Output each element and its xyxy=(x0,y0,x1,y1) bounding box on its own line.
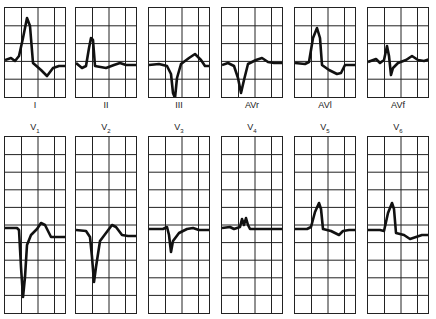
ecg-panel-v5 xyxy=(294,136,356,314)
ecg-grid-and-trace xyxy=(295,137,355,313)
lead-label-v3: V3 xyxy=(148,122,210,134)
ecg-grid-and-trace xyxy=(5,137,65,313)
lead-label-avf: AVf xyxy=(367,100,429,110)
ecg-panel-avr xyxy=(221,7,283,98)
lead-label-v4: V4 xyxy=(221,122,283,134)
ecg-waveform xyxy=(222,218,282,229)
ecg-waveform xyxy=(76,225,136,282)
ecg-waveform xyxy=(295,28,355,74)
ecg-panel-v1 xyxy=(4,136,66,314)
ecg-grid-and-trace xyxy=(222,137,282,313)
lead-label-avl: AVl xyxy=(294,100,356,110)
lead-name: I xyxy=(34,100,37,110)
lead-name: AVl xyxy=(318,100,331,110)
ecg-grid-and-trace xyxy=(76,137,136,313)
ecg-panel-iii xyxy=(148,7,210,98)
ecg-waveform xyxy=(368,46,428,75)
lead-subscript: 2 xyxy=(107,128,110,134)
lead-label-v6: V6 xyxy=(367,122,429,134)
lead-subscript: 6 xyxy=(399,128,402,134)
ecg-waveform xyxy=(76,38,136,68)
ecg-waveform xyxy=(368,203,428,239)
ecg-grid-and-trace xyxy=(368,8,428,97)
lead-name: III xyxy=(175,100,183,110)
ecg-grid-and-trace xyxy=(222,8,282,97)
ecg-waveform xyxy=(222,58,282,93)
ecg-panel-ii xyxy=(75,7,137,98)
ecg-panel-avf xyxy=(367,7,429,98)
ecg-panel-i xyxy=(4,7,66,98)
lead-subscript: 5 xyxy=(326,128,329,134)
ecg-grid-and-trace xyxy=(368,137,428,313)
ecg-grid-and-trace xyxy=(149,8,209,97)
lead-label-ii: II xyxy=(75,100,137,110)
lead-subscript: 1 xyxy=(36,128,39,134)
lead-subscript: 3 xyxy=(180,128,183,134)
ecg-grid-and-trace xyxy=(5,8,65,97)
ecg-waveform xyxy=(149,227,209,252)
lead-label-iii: III xyxy=(148,100,210,110)
ecg-panel-v2 xyxy=(75,136,137,314)
ecg-panel-v4 xyxy=(221,136,283,314)
lead-label-v2: V2 xyxy=(75,122,137,134)
lead-label-v5: V5 xyxy=(294,122,356,134)
ecg-waveform xyxy=(5,18,65,76)
lead-name: AVr xyxy=(245,100,259,110)
lead-name: AVf xyxy=(391,100,405,110)
ecg-grid-and-trace xyxy=(295,8,355,97)
lead-subscript: 4 xyxy=(253,128,256,134)
lead-label-i: I xyxy=(4,100,66,110)
ecg-panel-v3 xyxy=(148,136,210,314)
ecg-grid-and-trace xyxy=(76,8,136,97)
lead-label-v1: V1 xyxy=(4,122,66,134)
ecg-panel-avl xyxy=(294,7,356,98)
ecg-panel-v6 xyxy=(367,136,429,314)
ecg-grid-and-trace xyxy=(149,137,209,313)
lead-label-avr: AVr xyxy=(221,100,283,110)
ecg-waveform xyxy=(149,54,209,97)
lead-name: II xyxy=(103,100,108,110)
